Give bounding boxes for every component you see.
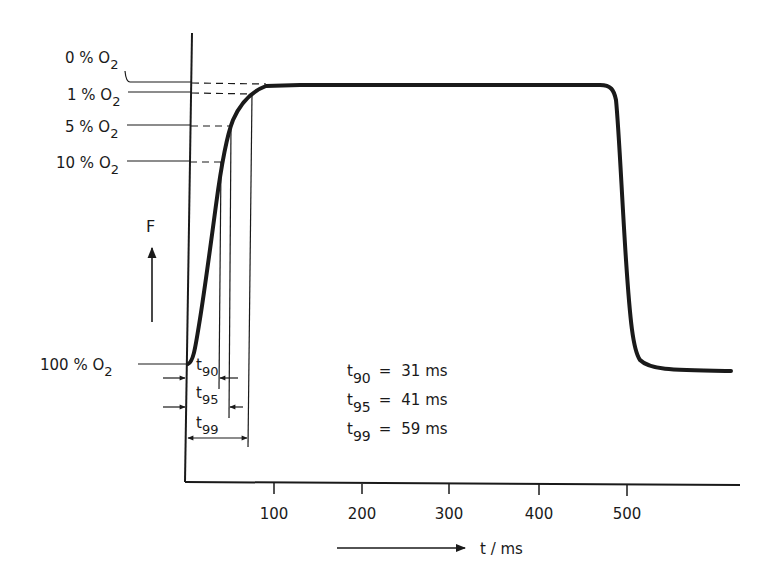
t90-marker-label: t90 [196,356,218,379]
x-tick-labels: 100 200 300 400 500 [260,505,642,523]
response-curve [188,85,731,371]
label-100-percent-o2: 100 % O2 [40,356,113,379]
result-t95: t95=41 ms [347,391,448,415]
t95-marker-label: t95 [196,384,218,407]
x-tick-400: 400 [525,505,554,523]
result-t90: t90=31 ms [347,362,448,386]
response-time-results: t90=31 ms t95=41 ms t99=59 ms [347,362,448,444]
x-axis-label: t / ms [480,540,523,558]
x-axis [185,482,740,485]
level-dashed-lines [190,83,266,162]
x-tick-200: 200 [348,505,377,523]
y-axis-label: F [146,217,155,236]
x-tick-300: 300 [435,505,464,523]
o2-level-labels: 0 % O2 1 % O2 5 % O2 10 % O2 100 % O2 [40,49,120,379]
result-t99: t99=59 ms [347,420,448,444]
x-tick-500: 500 [613,505,642,523]
label-0-percent-o2: 0 % O2 [65,49,118,72]
response-time-chart: 100 200 300 400 500 t / ms F 0 % O2 1 % … [0,0,773,577]
label-1-percent-o2: 1 % O2 [67,86,120,109]
label-10-percent-o2: 10 % O2 [56,154,119,177]
time-marker-labels: t90 t95 t99 [196,356,218,437]
label-5-percent-o2: 5 % O2 [65,118,118,141]
level-leader-lines [125,71,192,364]
t99-marker-label: t99 [196,414,218,437]
y-axis [185,33,192,482]
x-tick-100: 100 [260,505,289,523]
